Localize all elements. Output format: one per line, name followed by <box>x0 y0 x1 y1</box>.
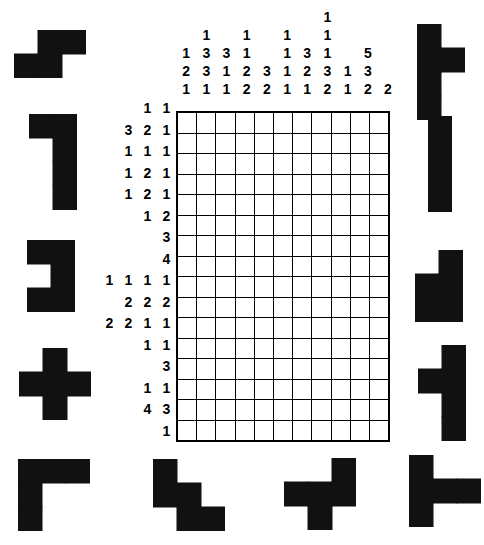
grid-cell[interactable] <box>331 338 350 359</box>
grid-cell[interactable] <box>350 297 369 318</box>
grid-cell[interactable] <box>369 277 389 298</box>
grid-cell[interactable] <box>197 154 216 175</box>
grid-cell[interactable] <box>216 420 235 441</box>
grid-cell[interactable] <box>254 154 273 175</box>
grid-cell[interactable] <box>293 379 312 400</box>
grid-cell[interactable] <box>177 400 197 421</box>
grid-cell[interactable] <box>369 297 389 318</box>
nonogram-grid[interactable] <box>176 111 390 442</box>
s-tetromino-shape[interactable] <box>14 30 86 78</box>
grid-cell[interactable] <box>369 338 389 359</box>
grid-cell[interactable] <box>273 195 292 216</box>
grid-cell[interactable] <box>177 359 197 380</box>
grid-cell[interactable] <box>273 297 292 318</box>
grid-cell[interactable] <box>350 154 369 175</box>
grid-cell[interactable] <box>177 256 197 277</box>
grid-cell[interactable] <box>273 215 292 236</box>
grid-cell[interactable] <box>177 133 197 154</box>
grid-cell[interactable] <box>350 359 369 380</box>
grid-cell[interactable] <box>235 338 254 359</box>
grid-cell[interactable] <box>216 215 235 236</box>
grid-cell[interactable] <box>216 318 235 339</box>
grid-cell[interactable] <box>177 420 197 441</box>
grid-cell[interactable] <box>350 174 369 195</box>
plus-piece-shape[interactable] <box>19 348 91 420</box>
grid-cell[interactable] <box>293 277 312 298</box>
grid-cell[interactable] <box>293 400 312 421</box>
grid-cell[interactable] <box>312 400 331 421</box>
grid-cell[interactable] <box>331 215 350 236</box>
grid-cell[interactable] <box>273 338 292 359</box>
grid-cell[interactable] <box>254 400 273 421</box>
grid-cell[interactable] <box>216 195 235 216</box>
left-nub-piece-shape[interactable] <box>418 345 466 441</box>
grid-cell[interactable] <box>369 133 389 154</box>
grid-cell[interactable] <box>369 420 389 441</box>
grid-cell[interactable] <box>177 154 197 175</box>
grid-cell[interactable] <box>235 256 254 277</box>
grid-cell[interactable] <box>273 112 292 133</box>
grid-cell[interactable] <box>177 236 197 257</box>
grid-cell[interactable] <box>331 297 350 318</box>
grid-cell[interactable] <box>331 256 350 277</box>
grid-cell[interactable] <box>369 112 389 133</box>
grid-cell[interactable] <box>235 379 254 400</box>
grid-cell[interactable] <box>235 174 254 195</box>
grid-cell[interactable] <box>235 400 254 421</box>
grid-cell[interactable] <box>293 318 312 339</box>
grid-cell[interactable] <box>216 359 235 380</box>
grid-cell[interactable] <box>312 277 331 298</box>
grid-cell[interactable] <box>197 338 216 359</box>
grid-cell[interactable] <box>216 256 235 277</box>
c-bracket-piece-shape[interactable] <box>27 240 75 312</box>
grid-cell[interactable] <box>197 420 216 441</box>
grid-cell[interactable] <box>254 195 273 216</box>
grid-cell[interactable] <box>350 112 369 133</box>
grid-cell[interactable] <box>254 359 273 380</box>
grid-cell[interactable] <box>369 174 389 195</box>
grid-cell[interactable] <box>369 379 389 400</box>
grid-cell[interactable] <box>197 133 216 154</box>
grid-cell[interactable] <box>350 400 369 421</box>
grid-cell[interactable] <box>312 112 331 133</box>
p-pentomino-piece-shape[interactable] <box>415 250 463 322</box>
grid-cell[interactable] <box>254 420 273 441</box>
grid-cell[interactable] <box>177 215 197 236</box>
grid-cell[interactable] <box>177 112 197 133</box>
grid-cell[interactable] <box>254 379 273 400</box>
grid-cell[interactable] <box>216 112 235 133</box>
grid-cell[interactable] <box>235 215 254 236</box>
grid-cell[interactable] <box>273 420 292 441</box>
grid-cell[interactable] <box>293 338 312 359</box>
grid-cell[interactable] <box>331 420 350 441</box>
grid-cell[interactable] <box>312 318 331 339</box>
grid-cell[interactable] <box>331 400 350 421</box>
grid-cell[interactable] <box>254 133 273 154</box>
grid-cell[interactable] <box>293 359 312 380</box>
grid-cell[interactable] <box>350 133 369 154</box>
grid-cell[interactable] <box>350 195 369 216</box>
grid-cell[interactable] <box>331 277 350 298</box>
grid-cell[interactable] <box>369 400 389 421</box>
grid-cell[interactable] <box>254 277 273 298</box>
grid-cell[interactable] <box>312 297 331 318</box>
grid-cell[interactable] <box>197 318 216 339</box>
grid-cell[interactable] <box>273 174 292 195</box>
grid-cell[interactable] <box>216 379 235 400</box>
w-staircase-piece-shape[interactable] <box>153 459 225 531</box>
grid-cell[interactable] <box>331 174 350 195</box>
grid-cell[interactable] <box>293 154 312 175</box>
j-piece-shape[interactable] <box>29 114 77 210</box>
grid-cell[interactable] <box>197 215 216 236</box>
grid-cell[interactable] <box>350 256 369 277</box>
grid-cell[interactable] <box>216 297 235 318</box>
grid-cell[interactable] <box>197 112 216 133</box>
grid-cell[interactable] <box>197 379 216 400</box>
grid-cell[interactable] <box>235 236 254 257</box>
grid-cell[interactable] <box>293 174 312 195</box>
grid-cell[interactable] <box>254 174 273 195</box>
grid-cell[interactable] <box>350 318 369 339</box>
grid-cell[interactable] <box>331 379 350 400</box>
grid-cell[interactable] <box>350 236 369 257</box>
grid-cell[interactable] <box>177 318 197 339</box>
